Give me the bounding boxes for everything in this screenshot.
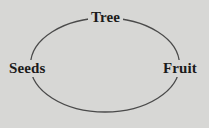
cycle-diagram: Seeds Tree Fruit (0, 0, 209, 128)
node-label-tree: Tree (88, 9, 123, 26)
node-label-fruit: Fruit (160, 60, 200, 77)
cycle-ellipse-path (31, 18, 180, 112)
node-label-seeds: Seeds (6, 60, 48, 77)
